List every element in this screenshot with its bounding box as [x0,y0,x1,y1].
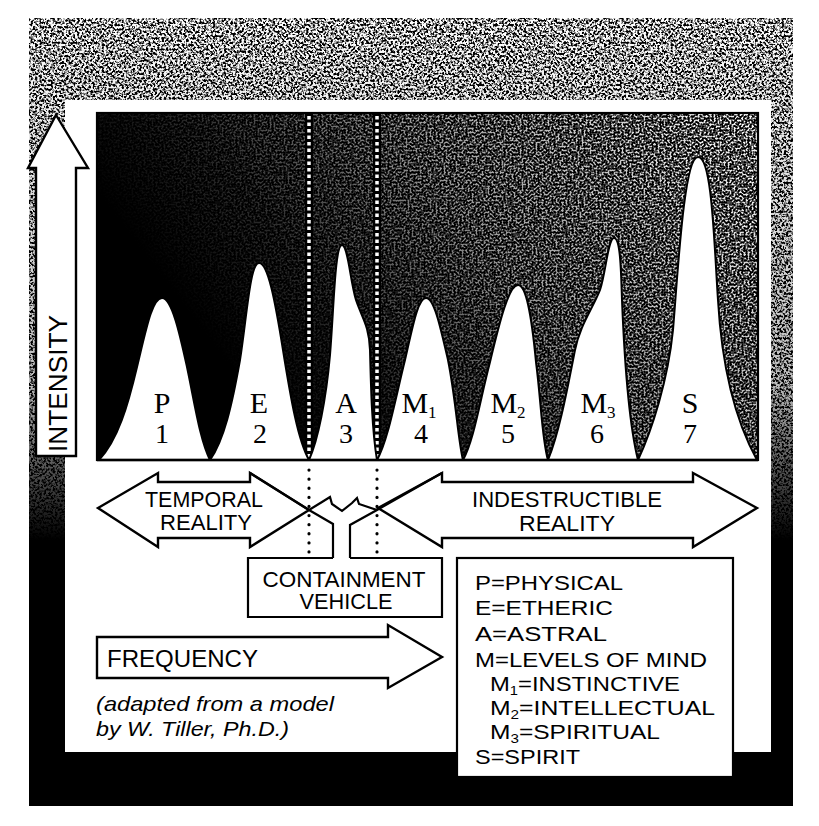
legend-item: M1=INSTINCTIVE [490,672,680,698]
tiller-model-diagram: INTENSITY P 1 E 2 A 3 [0,0,819,826]
legend-item: P=PHYSICAL [475,571,623,594]
peak-letter: E [250,386,268,419]
temporal-label-line1: TEMPORAL [145,487,263,512]
peak-number: 6 [590,418,604,449]
peak-number: 4 [414,418,428,449]
peak-number: 5 [501,418,515,449]
legend-item: S=SPIRIT [475,745,580,768]
spectrum-chart: P 1 E 2 A 3 M1 4 M2 5 M3 6 S 7 [97,113,758,460]
temporal-label-line2: REALITY [160,510,252,535]
legend-item: E=ETHERIC [475,596,613,619]
peak-number: 1 [155,418,169,449]
legend-item: M=LEVELS OF MIND [475,648,707,671]
indestructible-reality-arrow: INDESTRUCTIBLE REALITY [378,473,757,547]
peak-letter: P [154,386,171,419]
legend-item: M2=INTELLECTUAL [490,696,715,722]
peak-number: 7 [683,418,697,449]
indestructible-label-line2: REALITY [519,511,615,536]
legend-box: P=PHYSICAL E=ETHERIC A=ASTRAL M=LEVELS O… [457,558,733,777]
legend-item: A=ASTRAL [475,622,607,645]
containment-vehicle-box: CONTAINMENT VEHICLE [248,558,442,617]
boundary-dotted-line-right [373,113,381,460]
peak-number: 3 [339,418,353,449]
containment-label-line2: VEHICLE [300,589,393,614]
credit-line2: by W. Tiller, Ph.D.) [96,717,289,740]
credit-line1: (adapted from a model [96,692,335,715]
peak-letter: S [682,386,699,419]
peak-letter: A [335,386,357,419]
indestructible-label-line1: INDESTRUCTIBLE [472,487,662,512]
frequency-label: FREQUENCY [107,645,258,672]
intensity-label: INTENSITY [44,315,72,452]
peak-number: 2 [253,418,267,449]
boundary-dotted-line-left [305,113,313,460]
